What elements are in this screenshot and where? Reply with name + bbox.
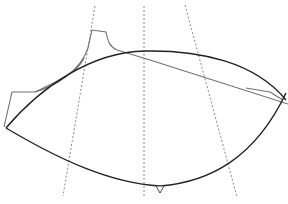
primary-outline-bottom-curve	[6, 93, 286, 186]
pattern-diagram	[0, 0, 288, 204]
secondary-outline-inner-curve	[35, 58, 84, 92]
right-guide-line	[185, 5, 237, 197]
primary-outline	[6, 51, 286, 186]
secondary-outline-main	[4, 30, 288, 127]
notch-marker-icon	[156, 186, 164, 193]
secondary-outline	[4, 30, 288, 127]
guide-lines	[63, 5, 237, 197]
left-guide-line	[63, 6, 95, 196]
